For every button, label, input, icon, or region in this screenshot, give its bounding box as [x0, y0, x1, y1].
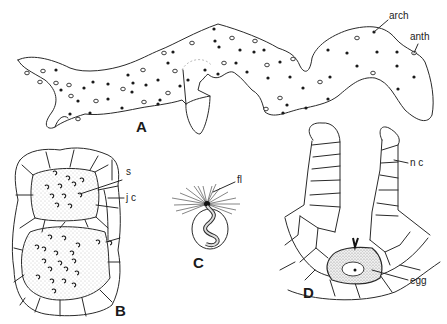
label-egg: egg [410, 275, 427, 286]
panel-b: s j c B [12, 148, 136, 319]
label-s: s [126, 166, 131, 177]
sperm-vesicle [192, 209, 228, 249]
panel-c: fl C [172, 174, 242, 271]
panel-d: egg n c D [280, 123, 440, 301]
label-arch: arch [389, 10, 408, 21]
archegonia-dots [54, 27, 415, 115]
label-anth: anth [410, 31, 429, 42]
panel-a: arch anth A [18, 10, 433, 135]
label-fl: fl [237, 174, 242, 185]
hidden-outline [182, 60, 212, 70]
panel-label-c: C [193, 254, 204, 271]
neck-left-outer [309, 123, 340, 232]
antheridia-rings [25, 36, 417, 121]
neck-left-inner [285, 141, 312, 217]
label-jc: j c [125, 192, 136, 203]
panel-label-b: B [115, 302, 126, 319]
egg-nucleus [342, 262, 364, 276]
nucleolus [354, 269, 357, 272]
neck-right-outer [380, 127, 430, 235]
panel-label-d: D [303, 284, 314, 301]
arrow-v [353, 238, 358, 247]
lobe-cut-line [186, 96, 210, 104]
thallus-outline [18, 24, 433, 134]
neck-cells [310, 142, 398, 216]
lobe-edge [183, 70, 186, 104]
label-nc: n c [410, 157, 423, 168]
fl-leader [213, 182, 235, 192]
panel-label-a: A [136, 118, 147, 135]
botanical-figure: arch anth A [0, 0, 447, 324]
